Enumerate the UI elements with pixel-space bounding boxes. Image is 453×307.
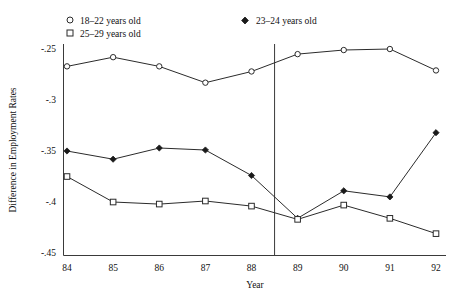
data-point-filled-diamond — [202, 147, 208, 153]
y-tick-label: -.35 — [41, 146, 56, 156]
series-2 — [64, 174, 439, 237]
data-point-open-circle — [295, 51, 300, 56]
legend-label-0: 18–22 years old — [80, 16, 141, 26]
data-point-filled-diamond — [156, 145, 162, 151]
legend-entry-2: 23–24 years old — [242, 16, 317, 26]
chart-figure: 18–22 years old 25–29 years old 23–24 ye… — [0, 0, 453, 307]
x-tick-label: 88 — [247, 263, 257, 273]
y-tick-label: -.25 — [41, 44, 56, 54]
data-point-open-square — [156, 201, 162, 207]
data-point-open-square — [110, 199, 116, 205]
x-axis-tick-labels: 848586878889909192 — [62, 263, 441, 273]
employment-rate-difference-line-chart: 18–22 years old 25–29 years old 23–24 ye… — [0, 0, 453, 307]
x-axis-title: Year — [246, 280, 264, 290]
x-tick-label: 89 — [293, 263, 303, 273]
x-tick-label: 86 — [155, 263, 165, 273]
data-point-open-square — [249, 203, 255, 209]
data-point-filled-diamond — [64, 148, 70, 154]
plot-frame — [64, 44, 447, 256]
x-tick-label: 91 — [385, 263, 395, 273]
data-point-open-square — [341, 202, 347, 208]
data-point-filled-diamond — [110, 156, 116, 162]
data-point-open-circle — [203, 80, 208, 85]
x-tick-label: 84 — [62, 263, 72, 273]
legend-label-2: 23–24 years old — [256, 16, 317, 26]
open-circle-icon — [67, 17, 73, 23]
data-point-filled-diamond — [341, 188, 347, 194]
y-tick-label: -.45 — [41, 248, 56, 258]
y-axis-title: Difference in Employment Rates — [8, 87, 18, 212]
y-tick-label: -.3 — [46, 95, 57, 105]
series-line — [67, 49, 436, 83]
x-tick-label: 85 — [108, 263, 118, 273]
legend-entry-1: 25–29 years old — [67, 29, 141, 39]
data-point-open-square — [387, 216, 393, 222]
data-point-open-circle — [341, 47, 346, 52]
data-point-open-circle — [249, 69, 254, 74]
series-0 — [64, 46, 438, 85]
x-tick-label: 87 — [201, 263, 211, 273]
data-point-open-square — [295, 217, 301, 223]
filled-diamond-icon — [242, 17, 249, 24]
data-point-open-square — [203, 198, 209, 204]
data-point-open-circle — [64, 64, 69, 69]
data-series-group — [64, 46, 439, 236]
data-point-open-circle — [157, 64, 162, 69]
y-axis-tick-labels: -.25-.3-.35-.4-.45 — [41, 44, 56, 258]
data-point-open-circle — [110, 54, 115, 59]
data-point-open-square — [64, 174, 70, 180]
open-square-icon — [67, 30, 73, 36]
data-point-open-circle — [387, 46, 392, 51]
legend-label-1: 25–29 years old — [80, 29, 141, 39]
x-tick-label: 90 — [339, 263, 349, 273]
legend-entry-0: 18–22 years old — [67, 16, 141, 26]
data-point-open-square — [433, 231, 439, 237]
y-tick-label: -.4 — [46, 197, 57, 207]
x-tick-label: 92 — [431, 263, 441, 273]
chart-legend: 18–22 years old 25–29 years old 23–24 ye… — [67, 16, 317, 39]
data-point-open-circle — [433, 68, 438, 73]
